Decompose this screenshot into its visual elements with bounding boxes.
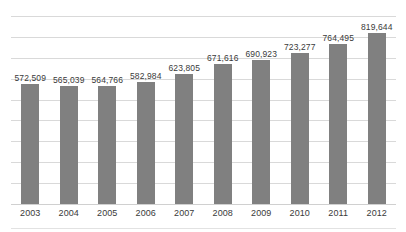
x-axis-label: 2005 [88, 208, 126, 218]
x-axis-label: 2003 [11, 208, 49, 218]
bar-value-label: 582,984 [123, 71, 169, 81]
bar[interactable] [98, 86, 116, 204]
bar-value-label: 764,495 [315, 33, 361, 43]
bar[interactable] [368, 33, 386, 204]
plot-area [11, 16, 396, 204]
bar-chart: 572,509565,039564,766582,984623,805671,6… [0, 0, 406, 232]
bar-value-label: 819,644 [354, 22, 400, 32]
bar[interactable] [214, 64, 232, 204]
gridline [11, 16, 396, 17]
x-axis-label: 2012 [358, 208, 396, 218]
x-axis-bottom-rule [11, 228, 396, 229]
x-axis-label: 2006 [127, 208, 165, 218]
x-axis-baseline [11, 204, 396, 205]
bar[interactable] [21, 84, 39, 204]
bar[interactable] [137, 82, 155, 204]
x-axis-label: 2010 [281, 208, 319, 218]
bar[interactable] [291, 53, 309, 204]
x-axis-label: 2004 [50, 208, 88, 218]
x-axis-label: 2009 [242, 208, 280, 218]
x-axis-label: 2011 [319, 208, 357, 218]
bar[interactable] [60, 86, 78, 204]
bar[interactable] [252, 60, 270, 204]
bar[interactable] [329, 44, 347, 204]
bar-value-label: 623,805 [161, 63, 207, 73]
bar-value-label: 723,277 [277, 42, 323, 52]
x-axis-label: 2007 [165, 208, 203, 218]
x-axis-label: 2008 [204, 208, 242, 218]
bar[interactable] [175, 74, 193, 204]
